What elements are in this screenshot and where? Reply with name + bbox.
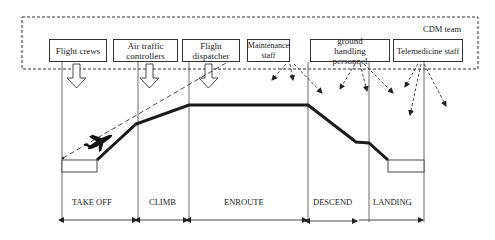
phase-landing: LANDING (373, 197, 412, 207)
stakeholder-ground-handling: ground handling personnel (310, 39, 390, 62)
landing-runway (388, 160, 424, 172)
dispatcher-link-line (63, 63, 226, 158)
phase-take-off: TAKE OFF (72, 197, 112, 207)
stakeholder-flight-dispatcher: Flight dispatcher (182, 39, 240, 62)
stakeholder-air-traffic-controllers: Air traffic controllers (113, 39, 178, 62)
phase-climb: CLIMB (149, 197, 176, 207)
phase-enroute: ENROUTE (224, 197, 264, 207)
stakeholder-flight-crews: Flight crews (49, 39, 107, 62)
stakeholder-telemedicine-staff: Telemedicine staff (393, 39, 463, 62)
takeoff-runway (62, 160, 97, 172)
dashed-arrows (272, 64, 446, 115)
cdm-team-label: CDM team (423, 24, 461, 34)
down-arrow-icon (67, 64, 218, 88)
stakeholder-maintenance-staff: Maintenance staff (247, 39, 290, 62)
phase-descend: DESCEND (313, 197, 352, 207)
airplane-icon (81, 126, 116, 157)
